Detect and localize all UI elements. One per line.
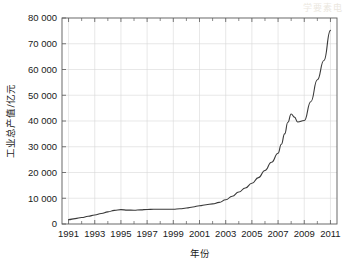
x-axis-tick-labels: 1991199319951997199920012003200520072009… [58, 228, 341, 239]
x-tick-label: 1993 [84, 228, 105, 239]
y-tick-label: 80 000 [28, 12, 57, 23]
y-tick-label: 10 000 [28, 193, 57, 204]
x-tick-label: 1999 [163, 228, 184, 239]
x-tick-label: 2003 [215, 228, 236, 239]
y-axis-tick-labels: 010 00020 00030 00040 00050 00060 00070 … [28, 12, 57, 229]
x-tick-label: 1991 [58, 228, 79, 239]
y-axis-title: 工业总产值/亿元 [5, 84, 16, 157]
y-tick-label: 60 000 [28, 64, 57, 75]
y-tick-label: 50 000 [28, 90, 57, 101]
y-tick-label: 70 000 [28, 38, 57, 49]
y-tick-label: 20 000 [28, 167, 57, 178]
y-axis-ticks [62, 18, 66, 224]
y-tick-label: 0 [52, 218, 57, 229]
grid-lines [62, 18, 337, 224]
y-tick-label: 30 000 [28, 141, 57, 152]
x-tick-label: 2001 [189, 228, 210, 239]
chart-container: 学要素电 010 00020 00030 00040 00050 00060 0… [0, 0, 347, 264]
x-tick-label: 1997 [137, 228, 158, 239]
x-axis-title: 年份 [190, 248, 210, 259]
x-tick-label: 1995 [110, 228, 131, 239]
y-tick-label: 40 000 [28, 115, 57, 126]
x-tick-label: 2007 [268, 228, 289, 239]
x-tick-label: 2005 [241, 228, 262, 239]
x-tick-label: 2011 [320, 228, 340, 239]
line-chart: 010 00020 00030 00040 00050 00060 00070 … [0, 0, 347, 264]
x-tick-label: 2009 [294, 228, 315, 239]
